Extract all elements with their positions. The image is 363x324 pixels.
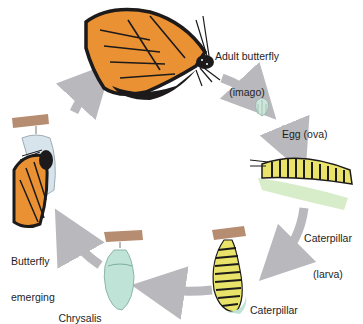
label-egg-line1: Egg (ova)	[282, 128, 328, 140]
label-caterpillar-line2: (larva)	[296, 268, 360, 280]
label-adult-line2: (imago)	[207, 86, 287, 98]
arrow-pupating-to-chrysalis	[158, 289, 212, 291]
label-caterpillar-line1: Caterpillar	[296, 232, 360, 244]
life-cycle-diagram: Adult butterfly (imago) Egg (ova) Caterp…	[0, 0, 363, 324]
caterpillar-illustration	[250, 158, 352, 210]
label-egg: Egg (ova)	[282, 104, 328, 164]
label-emerging: Butterfly emerging from chrysalis	[11, 231, 76, 324]
label-emerging-line2: emerging	[11, 291, 76, 303]
arrow-emerging-to-adult	[74, 82, 94, 112]
label-adult: Adult butterfly (imago)	[207, 26, 287, 122]
emerging-butterfly-illustration	[12, 114, 55, 227]
label-pupating-line1: Caterpillar	[250, 304, 307, 316]
adult-butterfly-illustration	[86, 10, 220, 100]
chrysalis-illustration	[104, 230, 143, 310]
label-adult-line1: Adult butterfly	[207, 50, 287, 62]
label-emerging-line1: Butterfly	[11, 255, 76, 267]
pupating-caterpillar-illustration	[212, 226, 246, 314]
label-pupating: Caterpillar beginning to pupate	[250, 280, 307, 324]
